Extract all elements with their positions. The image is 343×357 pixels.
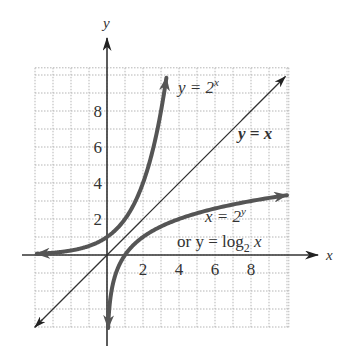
function-graph: 24682468 y x y = 2x y = x x = 2y or y = … [0,0,343,357]
x-tick-8: 8 [247,260,256,279]
log-curve-label-line2: or y = log2 x [177,232,262,255]
identity-line-label: y = x [236,124,273,143]
x-tick-4: 4 [175,260,184,279]
log-curve-label-line1: x = 2y [204,205,246,226]
y-tick-6: 6 [94,138,103,157]
curve-2 [108,195,287,328]
y-axis-label: y [101,15,110,31]
x-tick-2: 2 [139,260,148,279]
y-tick-8: 8 [94,102,103,121]
y-tick-2: 2 [94,210,103,229]
y-tick-4: 4 [94,174,103,193]
x-tick-6: 6 [211,260,220,279]
exp-curve-label: y = 2x [176,76,219,97]
x-axis-label: x [325,247,333,263]
